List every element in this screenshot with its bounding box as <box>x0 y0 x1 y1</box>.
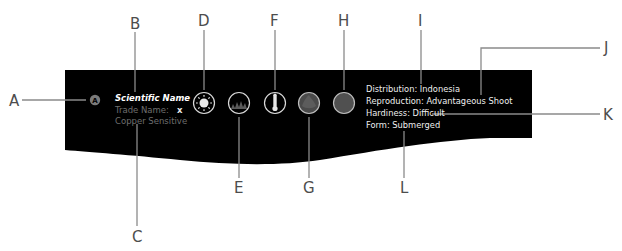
temperature-thermometer-icon <box>265 93 286 114</box>
callout-i: I <box>418 12 422 30</box>
light-sun-icon <box>194 93 215 114</box>
callout-l: L <box>400 179 409 197</box>
callout-c: C <box>132 228 142 246</box>
callout-k: K <box>603 106 614 124</box>
hardiness-text: Hardiness: Difficult <box>366 108 445 118</box>
copper-sensitive: Copper Sensitive <box>115 116 187 126</box>
reproduction-text: Reproduction: Advantageous Shoot <box>366 96 513 106</box>
callout-b: B <box>130 15 140 33</box>
callout-f: F <box>270 12 279 30</box>
textured-swatch-icon <box>299 93 320 114</box>
scientific-name: Scientific Name <box>115 93 190 103</box>
callout-g: G <box>303 179 315 197</box>
callout-e: E <box>234 179 243 197</box>
distribution-text: Distribution: Indonesia <box>366 84 460 94</box>
callout-d: D <box>198 12 210 30</box>
solid-swatch-icon <box>334 93 355 114</box>
callout-a: A <box>9 92 20 110</box>
svg-text:A: A <box>92 97 98 105</box>
growth-grass-icon <box>229 93 250 114</box>
badge-a-icon: A <box>90 95 100 105</box>
callout-h: H <box>338 12 349 30</box>
callout-j: J <box>603 39 608 57</box>
form-text: Form: Submerged <box>366 120 440 130</box>
